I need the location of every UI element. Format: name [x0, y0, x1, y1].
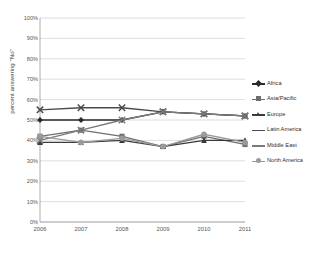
data-point-marker	[78, 140, 84, 146]
data-point-marker	[242, 140, 248, 146]
data-point-marker	[160, 144, 166, 150]
data-point-marker	[201, 131, 207, 137]
x-axis-tick-label: 2011	[239, 226, 251, 232]
legend-item-label: Middle East	[267, 143, 297, 149]
x-axis-tick-label: 2006	[34, 226, 47, 232]
legend-item-europe[interactable]: Europe	[252, 107, 312, 123]
x-axis-tick-label: 2007	[75, 226, 88, 232]
x-axis-tick-label: 2010	[198, 226, 211, 232]
legend-item-label: North America	[267, 158, 303, 164]
legend-marker-icon	[252, 79, 265, 88]
legend-item-label: Africa	[267, 81, 282, 87]
legend-item-africa[interactable]: Africa	[252, 76, 312, 92]
legend-item-label: Latin America	[267, 127, 301, 133]
legend-marker-icon	[252, 95, 265, 104]
legend-marker-icon	[252, 110, 265, 119]
legend-marker-icon	[252, 141, 265, 150]
legend-item-label: Asia/Pacific	[267, 96, 296, 102]
legend-item-north-america[interactable]: North America	[252, 154, 312, 170]
legend-item-middle-east[interactable]: Middle East	[252, 138, 312, 154]
line-chart: percent answering "No" 0%10%20%30%40%50%…	[0, 0, 312, 255]
data-point-marker	[119, 136, 125, 142]
legend-item-latin-america[interactable]: Latin America	[252, 123, 312, 139]
legend-item-asia-pacific[interactable]: Asia/Pacific	[252, 92, 312, 108]
x-axis-tick-label: 2008	[116, 226, 129, 232]
legend-marker-icon	[252, 126, 265, 135]
data-point-marker	[37, 134, 43, 140]
chart-legend: AfricaAsia/PacificEuropeLatin AmericaMid…	[252, 76, 312, 169]
legend-item-label: Europe	[267, 112, 285, 118]
legend-marker-icon	[252, 157, 265, 166]
x-axis-tick-label: 2009	[157, 226, 170, 232]
